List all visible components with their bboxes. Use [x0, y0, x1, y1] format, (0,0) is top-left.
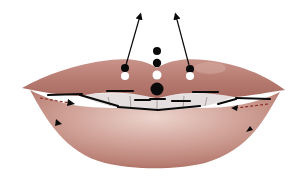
right-peak-black-dot: [186, 65, 194, 73]
center-dot-4-large: [151, 83, 164, 96]
center-dot-2: [153, 59, 161, 67]
lip-illustration: [0, 0, 303, 178]
left-peak-black-dot: [121, 64, 129, 72]
arrowhead-left-upper: [67, 99, 75, 106]
arrow-left: [126, 16, 140, 65]
center-dot-1: [153, 47, 161, 55]
left-peak-white-dot: [121, 72, 129, 80]
center-dot-3-white: [153, 71, 162, 80]
right-peak-white-dot: [186, 72, 194, 80]
upper-lip-highlight: [194, 62, 226, 74]
lip-diagram: [0, 0, 303, 178]
arrow-right: [176, 16, 189, 65]
lift-arrows: [126, 16, 189, 65]
